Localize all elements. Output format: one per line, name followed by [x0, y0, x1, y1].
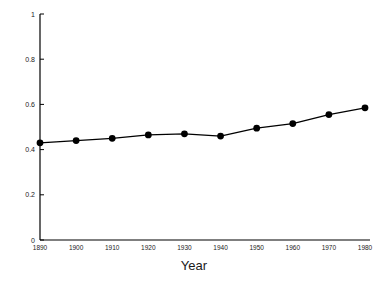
x-tick-label: 1910: [97, 244, 127, 251]
data-point-marker: [73, 137, 80, 144]
x-tick-label: 1900: [61, 244, 91, 251]
y-tick-label: 0.2: [8, 191, 35, 198]
data-point-marker: [109, 135, 116, 142]
data-point-marker: [325, 111, 332, 118]
data-point-marker: [37, 139, 44, 146]
data-line: [40, 108, 365, 143]
x-tick-label: 1950: [242, 244, 272, 251]
x-tick-label: 1970: [314, 244, 344, 251]
data-point-marker: [145, 132, 152, 139]
x-tick-label: 1920: [133, 244, 163, 251]
plot-area: [0, 0, 388, 285]
y-tick-label: 0.4: [8, 146, 35, 153]
x-tick-label: 1930: [169, 244, 199, 251]
data-point-marker: [362, 104, 369, 111]
data-point-marker: [181, 130, 188, 137]
y-tick-label: 0.8: [8, 56, 35, 63]
x-tick-label: 1980: [350, 244, 380, 251]
x-axis-title: Year: [0, 258, 388, 273]
line-chart: 00.20.40.60.81 1890190019101920193019401…: [0, 0, 388, 285]
y-tick-label: 1: [8, 11, 35, 18]
axes-group: [40, 14, 370, 240]
data-point-marker: [289, 120, 296, 127]
y-tick-label: 0: [8, 237, 35, 244]
x-tick-label: 1890: [25, 244, 55, 251]
data-point-marker: [217, 133, 224, 140]
y-tick-label: 0.6: [8, 101, 35, 108]
x-tick-label: 1960: [278, 244, 308, 251]
x-tick-label: 1940: [206, 244, 236, 251]
data-point-marker: [253, 125, 260, 132]
